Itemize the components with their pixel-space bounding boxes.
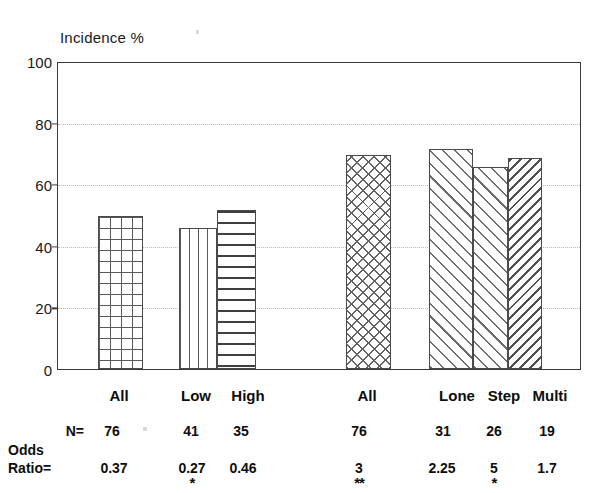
odds-value-high: 0.46	[229, 460, 256, 476]
bar-all-group1	[98, 216, 143, 369]
bar-multi	[508, 158, 542, 369]
n-value-step: 26	[486, 423, 502, 439]
y-axis: 100 80 60 40 20 0	[0, 0, 52, 493]
gridline-80	[58, 124, 580, 125]
row-label-n: N=	[0, 423, 84, 439]
y-tick-label-100: 100	[6, 54, 52, 71]
bar-step	[473, 167, 508, 369]
y-tick-label-80: 80	[6, 115, 52, 132]
scan-speck	[196, 30, 199, 34]
bar-lone	[429, 149, 473, 369]
row-label-ratio: Ratio=	[0, 460, 84, 476]
n-value-all-group2: 76	[351, 423, 367, 439]
y-axis-title: Incidence %	[60, 29, 144, 46]
x-label-high: High	[231, 387, 264, 404]
x-label-lone: Lone	[439, 387, 475, 404]
bar-low	[179, 228, 217, 369]
row-label-odds: Odds	[0, 442, 76, 458]
x-label-step: Step	[488, 387, 521, 404]
x-label-all-group1: All	[109, 387, 128, 404]
odds-value-all-group1: 0.37	[100, 460, 127, 476]
bar-high	[217, 210, 256, 369]
n-value-high: 35	[233, 423, 249, 439]
x-label-all-group2: All	[357, 387, 376, 404]
x-label-multi: Multi	[533, 387, 568, 404]
scan-speck	[143, 427, 147, 431]
y-tick-label-20: 20	[6, 300, 52, 317]
significance-star-low: *	[190, 474, 195, 491]
n-value-low: 41	[183, 423, 199, 439]
significance-star-step: *	[492, 474, 497, 491]
y-tick-label-40: 40	[6, 238, 52, 255]
odds-value-lone: 2.25	[428, 460, 455, 476]
y-tick-label-60: 60	[6, 177, 52, 194]
plot-area	[57, 62, 581, 370]
x-label-low: Low	[181, 387, 211, 404]
y-tick-label-0: 0	[6, 362, 52, 379]
significance-star-all-group2: **	[354, 474, 364, 491]
n-value-multi: 19	[539, 423, 555, 439]
odds-value-multi: 1.7	[537, 460, 556, 476]
n-value-lone: 31	[435, 423, 451, 439]
bar-all-group2	[346, 155, 391, 369]
n-value-all-group1: 76	[104, 423, 120, 439]
